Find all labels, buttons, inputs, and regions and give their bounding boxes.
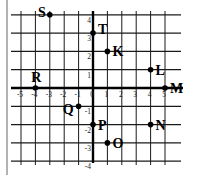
point-label: M	[170, 81, 183, 96]
point-dot	[47, 12, 53, 18]
point-label: S	[38, 5, 46, 20]
y-tick-label: -4	[85, 162, 91, 171]
point-s: S	[38, 5, 53, 20]
point-dot	[105, 140, 111, 146]
point-label: Q	[63, 102, 74, 117]
x-tick-label: 2	[119, 90, 123, 99]
point-label: T	[98, 22, 108, 37]
tick-labels: -5-4-3-2-10123454321-1-2-3-4	[17, 16, 166, 171]
point-dot	[90, 122, 96, 128]
y-tick-label: 2	[87, 52, 91, 61]
x-tick-label: -1	[74, 90, 80, 99]
x-tick-label: 4	[148, 90, 152, 99]
x-tick-label: -4	[31, 90, 37, 99]
point-dot	[90, 30, 96, 36]
x-tick-label: -5	[17, 90, 23, 99]
point-dot	[105, 49, 111, 55]
x-tick-label: -2	[60, 90, 66, 99]
y-tick-label: 4	[87, 16, 91, 25]
x-tick-label: 3	[133, 90, 137, 99]
y-tick-label: -3	[85, 144, 91, 153]
y-tick-label: 3	[87, 34, 91, 43]
point-dot	[33, 85, 39, 91]
coordinate-grid-figure: -5-4-3-2-10123454321-1-2-3-4 STKLRMQPNO	[0, 0, 198, 175]
point-label: O	[112, 136, 123, 151]
y-tick-label: -1	[85, 107, 91, 116]
point-dot	[148, 67, 154, 73]
point-label: N	[156, 118, 166, 133]
x-tick-label: 5	[162, 90, 166, 99]
point-label: P	[98, 118, 107, 133]
x-tick-label: 0	[90, 90, 94, 99]
point-dot	[76, 104, 82, 110]
y-tick-label: 1	[87, 71, 91, 80]
point-dot	[148, 122, 154, 128]
point-label: R	[31, 70, 42, 85]
x-tick-label: -3	[46, 90, 52, 99]
point-dot	[162, 85, 168, 91]
point-label: K	[112, 44, 123, 59]
point-label: L	[156, 63, 165, 78]
y-tick-label: -2	[85, 126, 91, 135]
x-tick-label: 1	[105, 90, 109, 99]
coordinate-plane: -5-4-3-2-10123454321-1-2-3-4 STKLRMQPNO	[0, 0, 198, 175]
